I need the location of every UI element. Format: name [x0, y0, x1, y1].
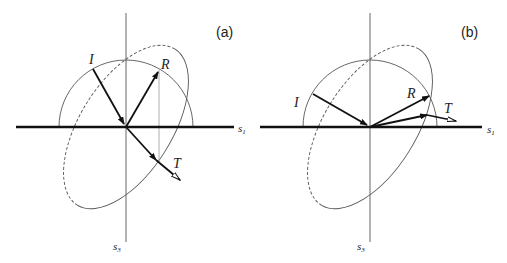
label-reflected: R — [160, 57, 170, 72]
reflected-ray — [126, 72, 158, 127]
label-s3: s3 — [357, 240, 365, 254]
panel-b: I R T (b) s1 s3 — [260, 13, 495, 254]
reflected-ray — [370, 96, 429, 127]
ellipse-solid — [321, 49, 458, 229]
label-s1: s1 — [238, 122, 246, 136]
panel-label: (b) — [461, 24, 478, 40]
label-transmitted: T — [444, 101, 453, 116]
label-s1: s1 — [487, 123, 495, 137]
label-incident: I — [88, 52, 95, 67]
ellipse-dashed — [38, 25, 175, 205]
label-transmitted: T — [173, 156, 182, 171]
transmitted-ray-segment — [370, 115, 427, 127]
transmitted-ray-segment — [126, 127, 156, 160]
label-s3: s3 — [113, 240, 121, 254]
incident-ray — [93, 69, 124, 124]
panel-label: (a) — [216, 24, 233, 40]
label-reflected: R — [406, 86, 416, 101]
label-incident: I — [293, 95, 300, 110]
panel-a: I R T (a) s1 s3 — [16, 13, 246, 254]
diagram-canvas: I R T (a) s1 s3 I R T (b) s1 s3 — [0, 0, 507, 263]
